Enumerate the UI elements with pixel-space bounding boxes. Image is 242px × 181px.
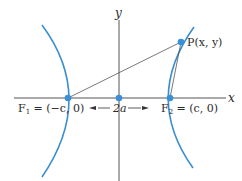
point-p: [178, 39, 185, 46]
line-f1-to-p: [68, 42, 181, 98]
y-axis-label: y: [114, 6, 122, 20]
vertex-distance-label: 2a: [112, 102, 127, 115]
x-axis-label: x: [228, 91, 235, 105]
focus-f1-point: [65, 95, 72, 102]
focus-f2-point: [167, 95, 174, 102]
focus-f2-label: F2 = (c, 0): [161, 102, 218, 116]
focus-f1-label: F1 = (−c, 0): [18, 102, 84, 116]
point-p-label: P(x, y): [187, 36, 222, 49]
origin-point: [116, 95, 123, 102]
arrow-2a-left-head: [89, 106, 96, 110]
hyperbola-diagram: y x P(x, y) 2a F1 = (−c, 0) F2 = (c, 0): [0, 0, 242, 181]
hyperbola-left-branch: [42, 25, 69, 177]
arrow-2a-right-head: [142, 106, 149, 110]
